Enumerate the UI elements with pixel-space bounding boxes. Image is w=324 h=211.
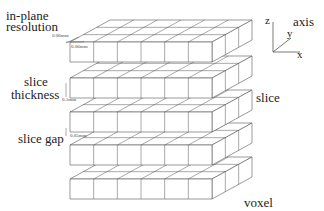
axis-y-label: y (287, 28, 293, 39)
slice-label: slice (256, 91, 280, 104)
axis-title: axis (293, 15, 314, 28)
voxel-label: voxel (244, 196, 273, 209)
in-plane-width-dimension: 0.06mm (71, 44, 88, 49)
axis-z-label: z (265, 15, 270, 26)
slice-gap-label: slice gap (18, 132, 64, 145)
slice-gap-dimension: 0.05mm (70, 133, 87, 138)
in-plane-depth-dimension: 0.06mm (52, 33, 69, 38)
slice-thickness-dimension: 0.1mm (62, 97, 76, 102)
in-plane-resolution-label-line2: resolution (6, 20, 58, 33)
slice-thickness-label-line2: thickness (11, 88, 59, 101)
voxel-diagram: in-plane resolution 0.06mm 0.06mm slice … (0, 0, 324, 211)
axis-x-label: x (297, 49, 303, 60)
